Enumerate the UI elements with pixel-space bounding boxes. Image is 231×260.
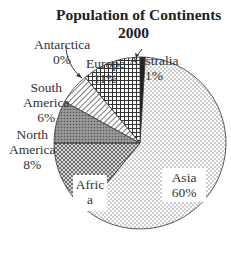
label-antarctica: Antarctica 0% — [34, 37, 90, 67]
label-europe-name: Europe — [86, 56, 125, 71]
label-south-america: South America 6% — [23, 80, 69, 125]
label-australia-pct: 1% — [129, 68, 179, 83]
label-south-america-pct: 6% — [23, 110, 69, 125]
label-europe: Europe 11% — [86, 56, 125, 86]
label-south-america-line2: America — [23, 95, 69, 110]
label-asia-name: Asia — [165, 170, 203, 185]
label-africa: Afric a — [75, 177, 105, 207]
label-north-america-line2: America — [9, 142, 55, 157]
label-south-america-line1: South — [23, 80, 69, 95]
label-africa-line1: Afric — [75, 177, 105, 192]
label-africa-line2: a — [75, 192, 105, 207]
label-asia-pct: 60% — [165, 185, 203, 200]
label-asia: Asia 60% — [165, 170, 203, 200]
label-north-america-pct: 8% — [9, 157, 55, 172]
label-north-america-line1: North — [9, 127, 55, 142]
label-antarctica-pct: 0% — [34, 52, 90, 67]
label-australia-name: Australia — [129, 53, 179, 68]
label-australia: Australia 1% — [129, 53, 179, 83]
label-europe-pct: 11% — [86, 71, 125, 86]
label-north-america: North America 8% — [9, 127, 55, 172]
label-antarctica-name: Antarctica — [34, 37, 90, 52]
